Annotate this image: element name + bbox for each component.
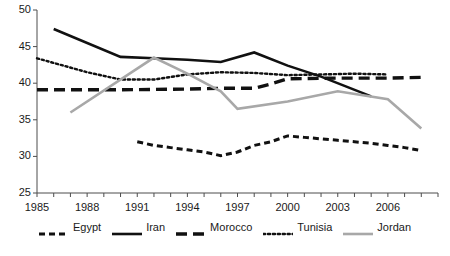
y-tick-label: 25 bbox=[6, 187, 31, 198]
x-tick-label: 1991 bbox=[117, 202, 157, 213]
x-tick-label: 1985 bbox=[17, 202, 57, 213]
x-tick-label: 1994 bbox=[167, 202, 207, 213]
legend-item-morocco: Morocco bbox=[176, 222, 252, 233]
legend-item-jordan: Jordan bbox=[343, 222, 411, 233]
y-tick-label: 45 bbox=[6, 41, 31, 52]
y-tick-label: 30 bbox=[6, 150, 31, 161]
x-tick-label: 2000 bbox=[268, 202, 308, 213]
x-axis-ticks bbox=[37, 193, 438, 197]
x-tick-label: 2006 bbox=[368, 202, 408, 213]
legend-label: Morocco bbox=[210, 222, 252, 233]
chart-axes bbox=[37, 10, 438, 193]
series-line-egypt bbox=[137, 136, 421, 156]
series-line-morocco bbox=[37, 77, 421, 89]
y-axis-ticks bbox=[33, 10, 37, 193]
line-chart: 253035404550 198519881991199419972000200… bbox=[0, 0, 450, 256]
legend-label: Iran bbox=[146, 222, 165, 233]
series-line-jordan bbox=[70, 58, 421, 129]
chart-legend: EgyptIranMoroccoTunisiaJordan bbox=[0, 222, 450, 233]
y-tick-label: 35 bbox=[6, 114, 31, 125]
x-tick-label: 1988 bbox=[67, 202, 107, 213]
x-tick-label: 1997 bbox=[218, 202, 258, 213]
legend-swatch-icon bbox=[39, 224, 69, 232]
legend-item-egypt: Egypt bbox=[39, 222, 101, 233]
legend-item-tunisia: Tunisia bbox=[263, 222, 332, 233]
legend-label: Jordan bbox=[377, 222, 411, 233]
legend-label: Tunisia bbox=[297, 222, 332, 233]
y-tick-label: 40 bbox=[6, 77, 31, 88]
chart-series-group bbox=[37, 29, 421, 156]
chart-plot-area bbox=[0, 0, 450, 256]
y-tick-label: 50 bbox=[6, 4, 31, 15]
legend-swatch-icon bbox=[263, 224, 293, 232]
legend-swatch-icon bbox=[176, 224, 206, 232]
legend-swatch-icon bbox=[343, 224, 373, 232]
x-tick-label: 2003 bbox=[318, 202, 358, 213]
legend-swatch-icon bbox=[112, 224, 142, 232]
legend-label: Egypt bbox=[73, 222, 101, 233]
legend-item-iran: Iran bbox=[112, 222, 165, 233]
